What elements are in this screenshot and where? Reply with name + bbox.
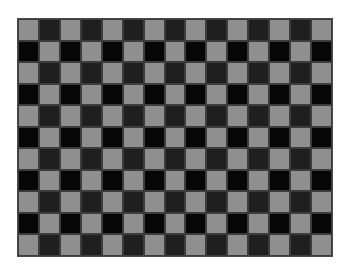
dark-square [102,84,123,106]
dark-square [165,234,186,256]
dark-square [206,191,227,213]
dark-square [39,62,60,84]
light-square [248,213,269,235]
light-square [165,41,186,63]
light-square [123,41,144,63]
dark-square [269,84,290,106]
light-square [269,148,290,170]
dark-square [248,191,269,213]
light-square [185,62,206,84]
light-square [269,105,290,127]
checkerboard [17,18,333,257]
light-square [123,84,144,106]
dark-square [227,213,248,235]
dark-square [206,148,227,170]
light-square [311,234,332,256]
light-square [102,62,123,84]
dark-square [60,213,81,235]
light-square [81,84,102,106]
light-square [227,191,248,213]
dark-square [144,213,165,235]
light-square [81,127,102,149]
dark-square [248,234,269,256]
dark-square [165,191,186,213]
dark-square [39,19,60,41]
light-square [102,148,123,170]
dark-square [248,148,269,170]
dark-square [18,213,39,235]
dark-square [102,41,123,63]
light-square [165,84,186,106]
dark-square [290,62,311,84]
light-square [18,105,39,127]
light-square [227,234,248,256]
dark-square [248,62,269,84]
dark-square [102,213,123,235]
light-square [39,41,60,63]
dark-square [123,62,144,84]
light-square [248,170,269,192]
light-square [185,105,206,127]
dark-square [165,19,186,41]
light-square [102,234,123,256]
dark-square [311,170,332,192]
dark-square [290,148,311,170]
light-square [248,41,269,63]
light-square [18,148,39,170]
dark-square [60,127,81,149]
dark-square [185,84,206,106]
light-square [185,19,206,41]
dark-square [311,84,332,106]
light-square [290,213,311,235]
dark-square [311,41,332,63]
dark-square [206,234,227,256]
dark-square [18,170,39,192]
dark-square [39,191,60,213]
light-square [269,19,290,41]
dark-square [227,170,248,192]
light-square [227,105,248,127]
dark-square [269,170,290,192]
dark-square [81,19,102,41]
light-square [185,234,206,256]
light-square [206,213,227,235]
dark-square [227,84,248,106]
light-square [290,127,311,149]
dark-square [311,213,332,235]
dark-square [81,62,102,84]
light-square [165,213,186,235]
light-square [18,191,39,213]
dark-square [123,148,144,170]
dark-square [185,170,206,192]
light-square [311,105,332,127]
dark-square [102,127,123,149]
light-square [269,62,290,84]
dark-square [311,127,332,149]
dark-square [290,234,311,256]
light-square [311,19,332,41]
dark-square [165,62,186,84]
dark-square [290,191,311,213]
light-square [81,213,102,235]
light-square [311,191,332,213]
dark-square [227,127,248,149]
light-square [206,127,227,149]
light-square [311,62,332,84]
dark-square [248,19,269,41]
dark-square [123,234,144,256]
dark-square [206,19,227,41]
dark-square [269,213,290,235]
light-square [206,170,227,192]
dark-square [185,127,206,149]
light-square [144,105,165,127]
dark-square [123,191,144,213]
dark-square [290,105,311,127]
light-square [18,62,39,84]
light-square [81,41,102,63]
dark-square [144,127,165,149]
light-square [81,170,102,192]
light-square [206,41,227,63]
light-square [60,234,81,256]
light-square [60,105,81,127]
light-square [248,84,269,106]
